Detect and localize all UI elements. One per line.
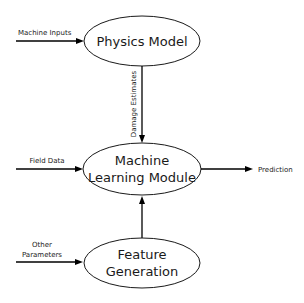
arrow-head-icon — [75, 259, 83, 265]
edge-label-damage-estimates: Damage Estimates — [130, 70, 138, 137]
edge-label-other-parameters-line-1: Other — [32, 241, 52, 249]
edge-label-field-data: Field Data — [29, 157, 64, 165]
node-label-line-2: Generation — [106, 264, 179, 279]
edge-damage-estimates: Damage Estimates — [130, 66, 145, 143]
node-physics-model: Physics Model — [84, 16, 200, 66]
node-label-line-1: Machine — [115, 153, 169, 168]
edge-label-other-parameters-line-2: Parameters — [22, 251, 62, 259]
arrow-head-icon — [139, 196, 145, 204]
node-feature-generation: Feature Generation — [84, 238, 200, 288]
ellipse-shape — [83, 143, 201, 195]
edge-label-prediction: Prediction — [258, 166, 293, 174]
edge-prediction: Prediction — [201, 166, 293, 174]
diagram-canvas: Machine Inputs Physics Model Damage Esti… — [0, 0, 304, 303]
arrow-head-icon — [76, 38, 84, 44]
edge-other-parameters: Other Parameters — [16, 241, 83, 265]
arrow-head-icon — [139, 135, 145, 143]
edge-features — [139, 196, 145, 238]
node-label-line-1: Feature — [117, 247, 166, 262]
ellipse-shape — [84, 238, 200, 288]
edge-label-machine-inputs: Machine Inputs — [18, 29, 72, 37]
arrow-head-icon — [75, 166, 83, 172]
arrow-head-icon — [245, 166, 253, 172]
node-label: Physics Model — [96, 34, 187, 49]
edge-field-data: Field Data — [16, 157, 83, 172]
node-ml-module: Machine Learning Module — [83, 143, 201, 195]
edge-machine-inputs: Machine Inputs — [16, 29, 84, 44]
node-label-line-2: Learning Module — [88, 170, 196, 185]
